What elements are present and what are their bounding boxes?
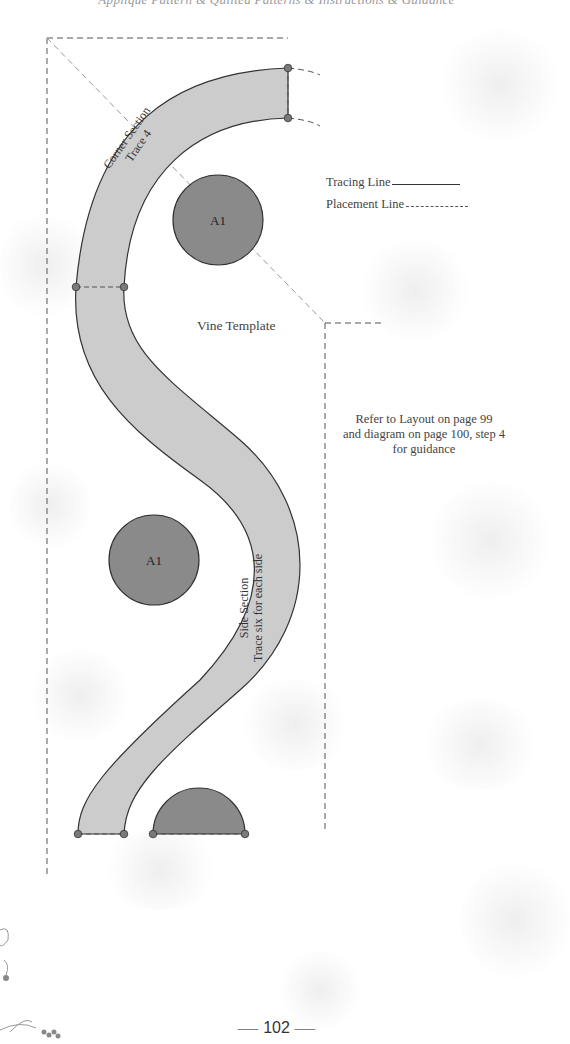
guidance-note: Refer to Layout on page 99 and diagram o… — [324, 412, 524, 457]
guidance-line-2: and diagram on page 100, step 4 — [324, 427, 524, 442]
page-number-value: 102 — [263, 1019, 290, 1036]
svg-text:Trace six for each side: Trace six for each side — [251, 554, 265, 662]
tracing-line-label: Tracing Line — [326, 175, 390, 190]
flourish-right-icon: ⸺ — [294, 1021, 316, 1036]
applique-half-circle — [153, 788, 245, 834]
legend-tracing-line: Tracing Line — [326, 168, 468, 190]
svg-text:Side Section: Side Section — [237, 578, 251, 638]
page-number: ⸺ 102 ⸺ — [0, 1018, 553, 1037]
placement-line-label: Placement Line — [326, 197, 404, 212]
guidance-line-3: for guidance — [324, 442, 524, 457]
dashed-line-sample — [406, 206, 468, 207]
piece-label-a1-bottom: A1 — [146, 553, 162, 568]
solid-line-sample — [392, 184, 460, 185]
flourish-left-icon: ⸺ — [237, 1021, 259, 1036]
template-title: Vine Template — [197, 318, 276, 334]
piece-label-a1-top: A1 — [210, 213, 226, 228]
line-legend: Tracing Line Placement Line — [326, 168, 468, 212]
legend-placement-line: Placement Line — [326, 190, 468, 212]
guidance-line-1: Refer to Layout on page 99 — [324, 412, 524, 427]
